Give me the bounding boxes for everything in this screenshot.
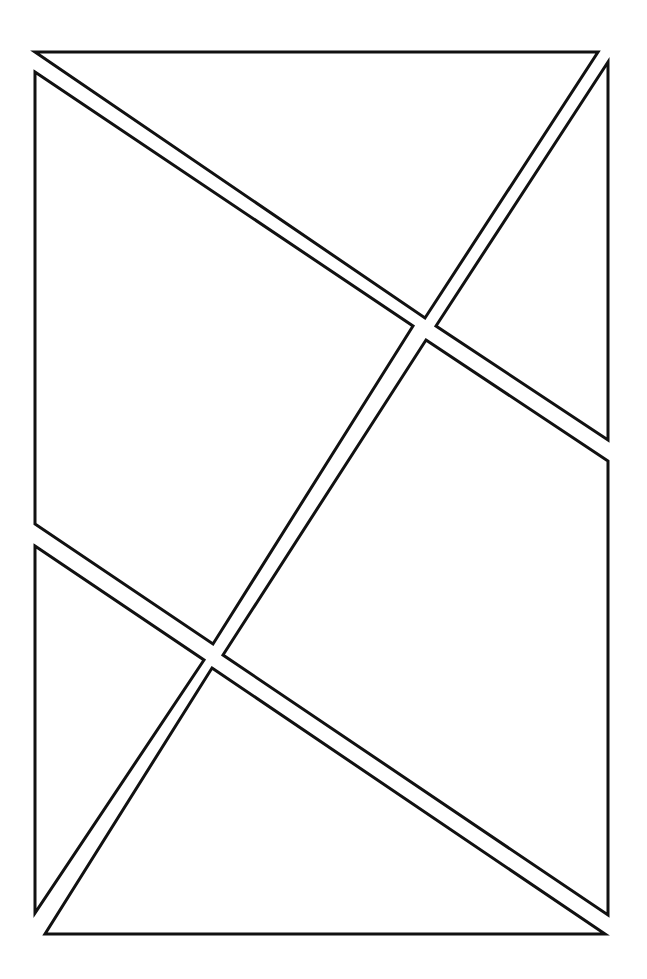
panel-layout-canvas (0, 0, 647, 979)
